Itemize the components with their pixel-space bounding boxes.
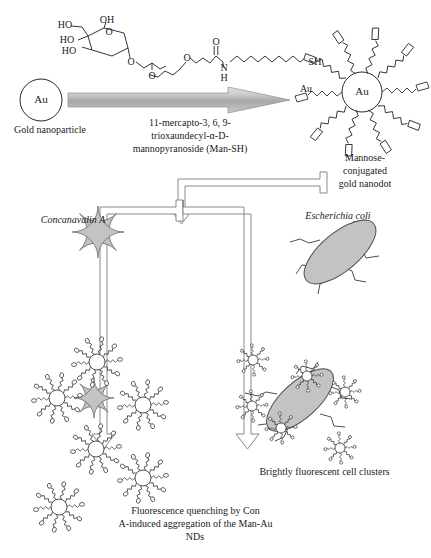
atom-label-amide-h: H: [219, 72, 229, 84]
nanodot-tiny: [324, 432, 356, 464]
atom-label-ring-o: O: [104, 26, 114, 38]
nanodot-small: [71, 423, 122, 474]
conjugation-arrow-caption-line3: mannopyranoside (Man-SH): [105, 143, 275, 155]
atom-label-carbonyl-o: O: [211, 36, 221, 48]
left-outcome-caption-line3: NDs: [155, 531, 235, 543]
nanodot-small: [118, 379, 169, 430]
nanodot-caption-line2: conjugated: [320, 165, 410, 177]
ecoli-shape: [290, 209, 386, 295]
left-outcome-caption-line2: A-induced aggregation of the Man-Au: [73, 518, 318, 530]
nanodot-small: [32, 372, 83, 423]
atom-label-glycosidic-o: O: [126, 56, 136, 68]
atom-label-ether-o-2: O: [182, 52, 192, 64]
nanodot-tiny: [237, 344, 269, 376]
concanavalin-a-label: Concanavalin A: [18, 214, 128, 226]
ecoli-label: Escherichia coli: [278, 210, 398, 222]
figure-root: HO OH O HO HO O O O O N H SH Au Gold nan…: [0, 0, 431, 558]
atom-label-ho-3: HO: [60, 45, 78, 57]
conjugation-arrow-caption-line1: 11-mercapto-3, 6, 9-: [110, 117, 270, 129]
nanodot-small: [118, 452, 169, 503]
nanodot-small: [72, 336, 123, 387]
nanodot-pointer-label: Au: [296, 83, 316, 95]
atom-label-thiol: SH: [305, 56, 325, 68]
gold-nanoparticle-caption: Gold nanoparticle: [0, 124, 100, 136]
conjugation-arrow-caption-line2: trioxaundecyl-α-D-: [110, 130, 270, 142]
atom-label-ether-o-1: O: [147, 70, 157, 82]
nanodot-caption-line3: gold nanodot: [317, 178, 413, 190]
right-outcome-caption: Brightly fluorescent cell clusters: [227, 466, 422, 478]
concanavalin-a-shape: [61, 195, 135, 269]
gold-nanoparticle-core-label: Au: [29, 93, 53, 106]
atom-label-oh-1: OH: [97, 14, 117, 26]
left-outcome-caption-line1: Fluorescence quenching by Con: [88, 505, 303, 517]
nanodot-caption-line1: Mannose-: [320, 152, 410, 164]
conjugation-arrow: [68, 87, 290, 113]
atom-label-ho-1: HO: [56, 19, 74, 31]
nanodot-core-label: Au: [350, 85, 374, 98]
ecoli-cell-cluster: [236, 344, 361, 464]
